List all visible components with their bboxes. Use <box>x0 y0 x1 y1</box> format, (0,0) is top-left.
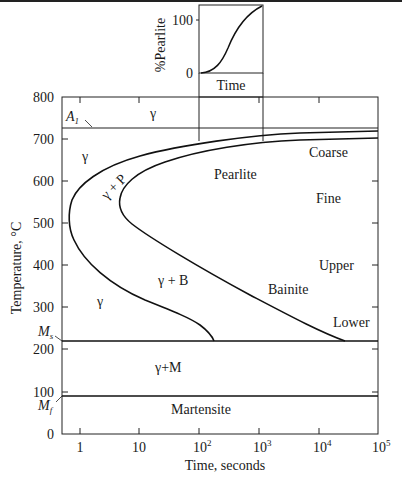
y-tick-500: 500 <box>33 216 54 231</box>
region-gamma-bottom: γ <box>96 294 103 309</box>
inset-tick-0: 0 <box>186 66 193 81</box>
x-tick-10000: 104 <box>313 438 332 455</box>
region-pearlite: Pearlite <box>214 167 257 182</box>
pearlite-inset: 100 0 %Pearlite Time <box>153 5 263 141</box>
y-tick-400: 400 <box>33 258 54 273</box>
region-gamma-m: γ+M <box>154 360 182 375</box>
x-tick-10: 10 <box>132 440 146 455</box>
y-tick-800: 800 <box>33 90 54 105</box>
region-coarse: Coarse <box>309 145 348 160</box>
y-tick-0: 0 <box>47 427 54 442</box>
svg-text:Ms: Ms <box>37 324 54 341</box>
svg-text:A1: A1 <box>65 109 79 126</box>
region-gamma-left: γ <box>81 149 88 164</box>
y-tick-200: 200 <box>33 342 54 357</box>
x-tick-100000: 105 <box>372 438 391 455</box>
y-axis-label: Temperature, °C <box>9 222 24 314</box>
ms-label: Ms <box>37 324 62 341</box>
region-gamma-top: γ <box>149 106 156 121</box>
inset-y-label: %Pearlite <box>153 18 168 72</box>
ttt-diagram: 100 0 %Pearlite Time 800 700 6 <box>0 0 402 482</box>
x-tick-1: 1 <box>77 440 84 455</box>
region-lower: Lower <box>333 315 370 330</box>
region-martensite: Martensite <box>171 402 231 417</box>
x-tick-100: 102 <box>193 438 212 455</box>
region-bainite: Bainite <box>268 282 308 297</box>
inset-tick-100: 100 <box>172 13 193 28</box>
x-tick-1000: 103 <box>253 438 272 455</box>
inset-x-label: Time <box>216 78 245 93</box>
x-ticks <box>80 97 319 434</box>
y-tick-700: 700 <box>33 132 54 147</box>
transformation-start-curve <box>69 131 378 341</box>
x-axis-label: Time, seconds <box>185 458 265 473</box>
region-gamma-b: γ + B <box>157 273 188 288</box>
pearlite-sigmoid-curve <box>201 6 262 73</box>
a1-label: A1 <box>65 109 92 127</box>
y-tick-600: 600 <box>33 174 54 189</box>
y-tick-300: 300 <box>33 300 54 315</box>
svg-text:Mf: Mf <box>37 398 54 415</box>
mf-label: Mf <box>37 396 62 415</box>
region-fine: Fine <box>316 191 341 206</box>
region-upper: Upper <box>319 258 354 273</box>
